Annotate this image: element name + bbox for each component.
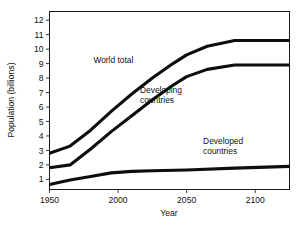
y-tick-label-4: 4 (39, 131, 44, 141)
y-tick-label-7: 7 (39, 88, 44, 98)
developing-label-line2: countries (140, 95, 174, 105)
chart-svg: 123456789101112 1950200020502100 World t… (0, 0, 304, 228)
y-tick-label-10: 10 (34, 44, 44, 54)
y-tick-label-9: 9 (39, 59, 44, 69)
y-axis-title: Population (billions) (6, 62, 16, 137)
y-tick-label-6: 6 (39, 102, 44, 112)
chart-background (0, 0, 304, 228)
developing-label-line1: Developing (140, 85, 182, 95)
developed-label-line1: Developed (203, 136, 243, 146)
x-tick-label-1950: 1950 (40, 195, 59, 205)
world-total-label: World total (93, 55, 133, 65)
y-tick-label-11: 11 (35, 30, 44, 40)
developed-label-line2: countries (203, 146, 237, 156)
population-projection-chart: 123456789101112 1950200020502100 World t… (0, 0, 304, 228)
y-tick-label-2: 2 (39, 160, 44, 170)
y-tick-label-5: 5 (39, 117, 44, 127)
y-tick-label-1: 1 (39, 174, 44, 184)
y-tick-label-8: 8 (39, 73, 44, 83)
x-tick-label-2100: 2100 (246, 195, 265, 205)
y-tick-label-12: 12 (34, 15, 44, 25)
x-tick-label-2000: 2000 (109, 195, 128, 205)
y-tick-label-3: 3 (39, 146, 44, 156)
x-tick-label-2050: 2050 (177, 195, 196, 205)
x-axis-title: Year (160, 208, 178, 218)
